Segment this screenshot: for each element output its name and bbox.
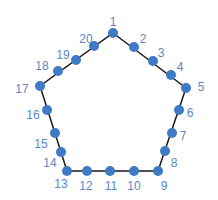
point-label-3: 3 xyxy=(158,46,165,60)
point-3 xyxy=(148,56,158,66)
point-label-11: 11 xyxy=(105,179,118,193)
point-label-9: 9 xyxy=(161,179,168,193)
point-label-15: 15 xyxy=(34,137,48,151)
point-label-8: 8 xyxy=(171,156,178,170)
point-label-10: 10 xyxy=(127,179,141,193)
point-6 xyxy=(174,105,184,115)
pentagon-diagram: 1234567891011121314151617181920 xyxy=(0,0,218,200)
point-label-16: 16 xyxy=(26,108,40,122)
point-label-18: 18 xyxy=(35,59,49,73)
point-label-7: 7 xyxy=(180,129,187,143)
point-2 xyxy=(129,42,139,52)
point-label-19: 19 xyxy=(56,48,70,62)
point-9 xyxy=(153,166,163,176)
point-8 xyxy=(160,146,170,156)
point-label-14: 14 xyxy=(43,156,57,170)
point-1 xyxy=(108,28,118,38)
point-label-17: 17 xyxy=(15,82,29,96)
point-label-6: 6 xyxy=(187,106,194,120)
point-16 xyxy=(42,105,52,115)
point-13 xyxy=(62,166,72,176)
point-10 xyxy=(129,166,139,176)
point-17 xyxy=(35,81,45,91)
point-label-13: 13 xyxy=(54,177,68,191)
point-4 xyxy=(166,70,176,80)
point-label-2: 2 xyxy=(140,32,147,46)
point-label-12: 12 xyxy=(79,179,93,193)
point-19 xyxy=(71,55,81,65)
point-5 xyxy=(181,83,191,93)
point-12 xyxy=(82,166,92,176)
point-15 xyxy=(50,128,60,138)
point-18 xyxy=(53,66,63,76)
point-label-5: 5 xyxy=(198,80,205,94)
point-label-20: 20 xyxy=(79,32,93,46)
point-label-4: 4 xyxy=(177,60,184,74)
point-label-1: 1 xyxy=(110,15,117,29)
point-11 xyxy=(105,166,115,176)
point-7 xyxy=(167,128,177,138)
point-14 xyxy=(56,147,66,157)
